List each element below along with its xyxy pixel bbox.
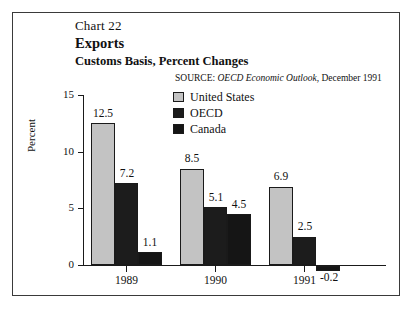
legend-label-oecd: OECD	[190, 106, 223, 121]
bar-canada-1989	[138, 252, 162, 265]
y-tick-label-0: 0	[69, 259, 75, 270]
bar-oecd-1991	[293, 237, 316, 265]
y-tick-label-5: 5	[69, 202, 75, 213]
bar-value-united-states-1989: 12.5	[87, 108, 119, 120]
y-tick-label-10: 10	[63, 146, 74, 157]
bar-value-canada-1989: 1.1	[134, 237, 166, 249]
x-tick-label-1991: 1991	[282, 274, 327, 286]
bar-canada-1990	[227, 214, 251, 265]
plot-area: Percent 0 5 10 15 12.5 7.2 1.1 1989 8.5 …	[0, 0, 413, 311]
chart-legend: United States OECD Canada	[173, 89, 254, 137]
y-tick-label-15: 15	[63, 89, 74, 100]
x-tick-mark-1990	[215, 266, 216, 272]
x-tick-label-1989: 1989	[104, 274, 149, 286]
y-tick-mark-15	[78, 95, 84, 96]
bar-oecd-1989	[115, 183, 138, 265]
bar-united-states-1990	[180, 169, 204, 265]
bar-oecd-1990	[204, 207, 227, 265]
bar-value-united-states-1991: 6.9	[265, 171, 297, 183]
x-tick-label-1990: 1990	[193, 274, 238, 286]
y-tick-mark-5	[78, 208, 84, 209]
legend-item-oecd: OECD	[173, 105, 254, 121]
legend-swatch-canada-icon	[173, 124, 184, 134]
bar-united-states-1989	[91, 123, 115, 265]
bar-value-united-states-1990: 8.5	[176, 153, 208, 165]
legend-item-canada: Canada	[173, 121, 254, 137]
legend-label-canada: Canada	[190, 122, 226, 137]
x-tick-mark-1991	[304, 266, 305, 272]
bar-value-oecd-1989: 7.2	[111, 168, 143, 180]
legend-swatch-oecd-icon	[173, 108, 184, 118]
y-axis-title: Percent	[25, 119, 37, 152]
legend-item-united-states: United States	[173, 89, 254, 105]
y-tick-mark-0	[78, 265, 84, 266]
legend-label-united-states: United States	[190, 90, 254, 105]
y-tick-mark-10	[78, 152, 84, 153]
bar-value-oecd-1991: 2.5	[289, 221, 321, 233]
x-tick-mark-1989	[126, 266, 127, 272]
chart-figure: Chart 22 Exports Customs Basis, Percent …	[0, 0, 413, 311]
x-axis-line	[83, 265, 386, 266]
legend-swatch-united-states-icon	[173, 92, 184, 102]
bar-value-canada-1990: 4.5	[223, 199, 255, 211]
y-axis-line	[83, 95, 84, 266]
